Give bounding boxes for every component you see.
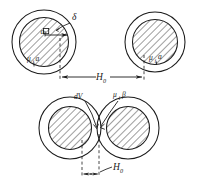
label-dv: dV: [74, 92, 84, 101]
bottom-left-core-hatch: [47, 105, 95, 153]
label-mu-beta-sub: i: [119, 94, 121, 101]
label-mu-beta-base: μ: [113, 90, 117, 99]
label-mu-beta-tail: β: [121, 90, 126, 99]
label-mu-i-beta: μ i β: [113, 90, 126, 101]
label-h0-bottom: H 0: [112, 162, 124, 174]
label-h0-top: H 0: [95, 72, 107, 84]
label-h0-bottom-sub: 0: [120, 167, 124, 174]
label-mu-right-tail: a: [158, 52, 162, 61]
label-mu-right-base: μ: [149, 53, 153, 62]
bottom-left-particle: [39, 97, 101, 159]
label-mu-left-tail: a: [36, 54, 40, 63]
bottom-right-particle: [97, 97, 159, 159]
label-delta: δ: [72, 12, 77, 22]
label-radius-a: a: [41, 27, 45, 36]
h0-bottom-leader: [100, 167, 112, 172]
bottom-right-core-hatch: [105, 105, 153, 153]
diagram-canvas: a δ μ i a μ i a: [0, 0, 199, 186]
label-h0-top-sub: 0: [103, 77, 107, 84]
label-mu-left-base: μ: [27, 54, 31, 63]
top-left-particle: [12, 10, 76, 74]
figure-container: a δ μ i a μ i a: [0, 0, 199, 186]
